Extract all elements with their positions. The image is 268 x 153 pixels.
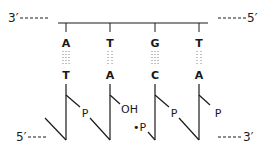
nick-phosphate-label: •P	[133, 121, 146, 134]
bottom-base-3: C	[151, 69, 159, 82]
phosphate-3-lower	[179, 118, 199, 140]
top-base-3: G	[150, 37, 159, 50]
h-bond-pair-1	[63, 51, 69, 65]
hydrogen-bonds	[63, 51, 201, 65]
hydroxyl-label: OH	[121, 103, 138, 116]
diagram-canvas: 3′ 5′ A T G T T A C A	[0, 0, 268, 153]
bottom-left-end-label: 5′	[16, 130, 27, 144]
top-left-end-label: 3′	[8, 11, 19, 25]
oh-bond	[110, 95, 120, 104]
backbone-left-stub	[45, 118, 66, 140]
h-bond-pair-2	[108, 51, 112, 65]
phosphate-4-upper	[199, 95, 210, 105]
top-right-end-label: 5′	[247, 11, 258, 25]
bottom-right-end-label: 3′	[243, 130, 254, 144]
phosphate-label-3: P	[171, 107, 178, 120]
phosphate-3-upper	[155, 95, 169, 107]
phosphate-1-upper	[66, 95, 80, 107]
top-base-4: T	[195, 37, 203, 50]
phosphate-label-1: P	[82, 107, 89, 120]
bottom-strand-bases: T A C A	[62, 69, 204, 82]
h-bond-pair-3	[152, 51, 158, 65]
top-base-2: T	[106, 37, 114, 50]
phosphate-label-4: P	[215, 107, 222, 120]
top-strand: 3′ 5′ A T G T	[8, 11, 258, 50]
bottom-base-1: T	[62, 69, 70, 82]
bottom-base-2: A	[106, 69, 115, 82]
top-base-1: A	[62, 37, 71, 50]
bottom-base-4: A	[195, 69, 204, 82]
h-bond-pair-4	[197, 51, 201, 65]
dna-nick-diagram: 3′ 5′ A T G T T A C A	[0, 0, 268, 153]
nick-phosphate-bond	[148, 132, 155, 140]
backbone-labels: P OH •P P P	[82, 103, 222, 134]
phosphate-1-lower	[90, 118, 110, 140]
